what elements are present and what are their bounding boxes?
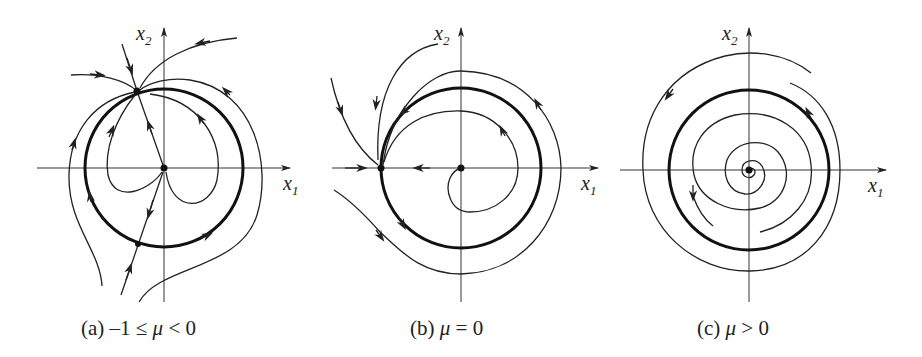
arrow-icon [126,268,130,280]
circle-arrow-icon [226,91,230,95]
arrow-icon [149,125,152,134]
trajectory [334,71,561,274]
origin-equilibrium [161,165,168,172]
arrow-icon [537,103,541,110]
x1-axis-label: x1 [867,174,883,200]
panel-c: x2 x1 (c) μ > 0 [620,22,886,340]
trajectory [140,38,237,88]
x1-axis-label: x1 [282,172,298,198]
trajectory [107,95,162,192]
node-point [135,241,141,247]
saddle-point [134,88,141,95]
arrow-icon [149,200,153,214]
origin-equilibrium [458,165,465,172]
caption-a: (a) –1 ≤ μ < 0 [81,316,196,340]
panel-a: x2 x1 [37,22,298,340]
trajectory [693,114,812,232]
phase-portrait-figure: x2 x1 [0,0,922,357]
trajectory [71,75,137,91]
x2-axis-label: x2 [135,22,152,48]
trajectory [150,94,218,203]
trajectory [378,44,438,160]
origin-equilibrium [746,167,753,174]
arrow-icon [376,96,377,105]
x2-axis-label: x2 [721,22,738,48]
trajectory [139,79,262,302]
caption-c: (c) μ > 0 [697,316,769,340]
x1-axis-label: x1 [580,172,596,198]
trajectory [693,196,713,226]
saddle-node-point [378,165,385,172]
trajectory [331,78,378,165]
caption-b: (b) μ = 0 [410,316,483,340]
arrow-icon [127,58,131,70]
trajectory [384,111,518,212]
panel-b: x2 x1 (b) μ = 0 [331,22,598,340]
arrow-icon [200,118,204,124]
